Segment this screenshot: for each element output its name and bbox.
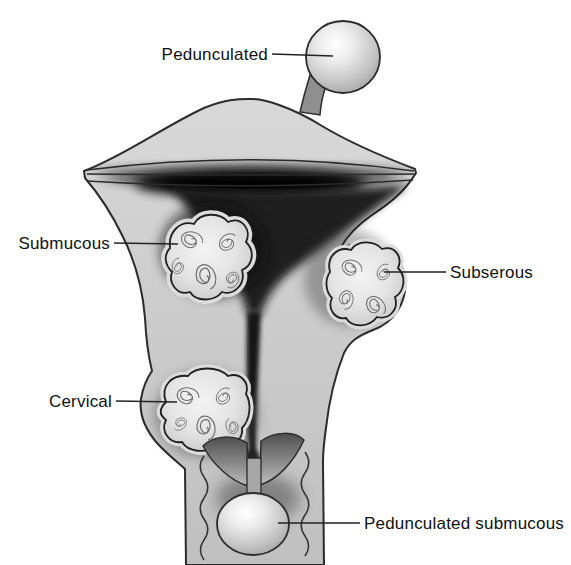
pedunculated-fibroid	[306, 21, 380, 93]
leader-line-submucous	[114, 243, 178, 244]
label-pedunculated: Pedunculated	[140, 45, 268, 64]
label-pedunculated-submucous: Pedunculated submucous	[364, 514, 564, 533]
leader-line-cervical	[116, 401, 177, 402]
pedunculated-submucous-fibroid	[217, 493, 289, 555]
label-subserous: Subserous	[450, 263, 533, 282]
label-cervical: Cervical	[30, 392, 112, 411]
fibroid-diagram-art	[0, 0, 571, 565]
fibroid-diagram: Pedunculated Submucous Subserous Cervica…	[0, 0, 571, 565]
subserous-fibroid	[304, 230, 403, 326]
label-submucous: Submucous	[8, 234, 110, 253]
